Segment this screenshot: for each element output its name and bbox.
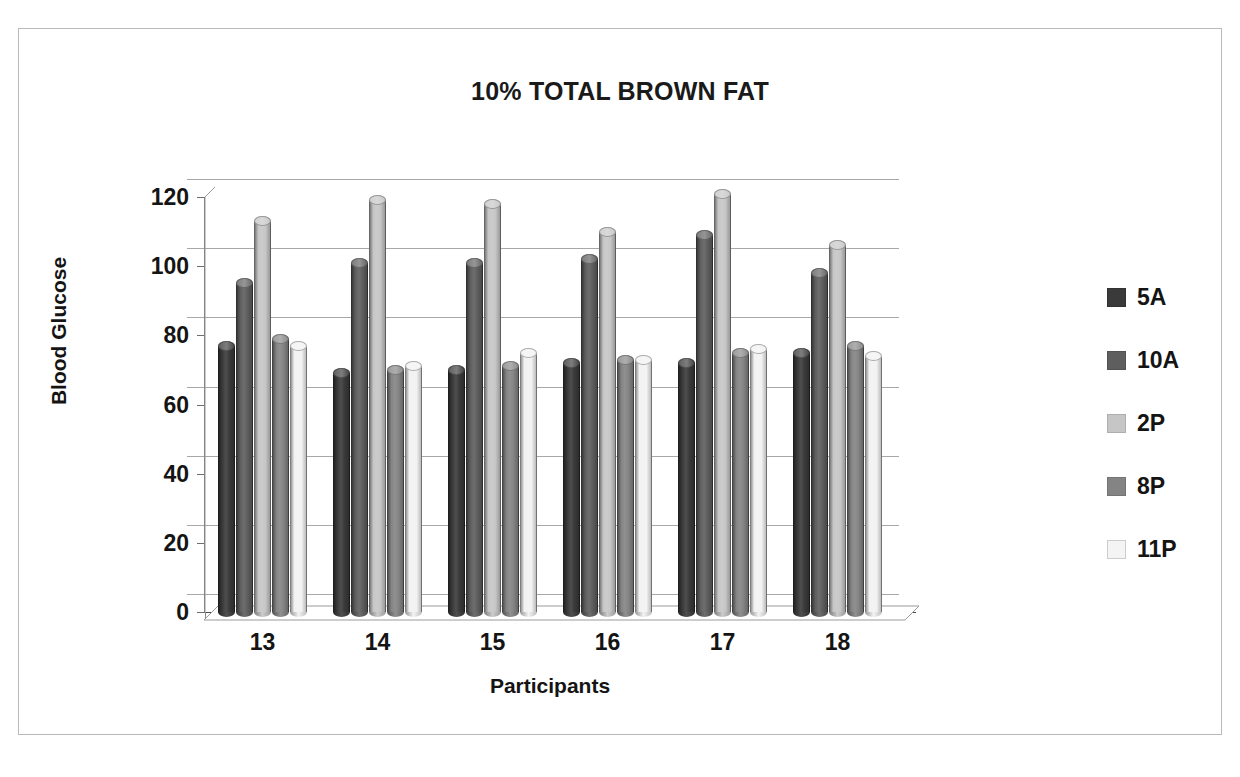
- bar-body: [387, 370, 404, 612]
- bar[interactable]: [581, 254, 598, 612]
- bar[interactable]: [218, 341, 235, 612]
- x-tick-mark: [550, 612, 551, 619]
- bar[interactable]: [484, 199, 501, 612]
- bar-body: [829, 245, 846, 612]
- bar[interactable]: [387, 365, 404, 612]
- bar-top-cap-outline: [290, 341, 307, 351]
- bar-top-cap-outline: [484, 199, 501, 209]
- chart-frame: 10% TOTAL BROWN FAT Blood Glucose 020406…: [18, 28, 1222, 735]
- x-tick-label: 15: [438, 629, 548, 656]
- bar-top-cap-outline: [793, 348, 810, 358]
- bar[interactable]: [599, 227, 616, 612]
- bar[interactable]: [732, 348, 749, 612]
- bar-body: [351, 263, 368, 612]
- x-tick-mark: [895, 612, 896, 619]
- bar-top-cap-outline: [847, 341, 864, 351]
- x-tick-label: 14: [323, 629, 433, 656]
- legend-swatch-icon: [1107, 477, 1126, 496]
- legend-label: 5A: [1137, 286, 1166, 309]
- bar[interactable]: [563, 358, 580, 612]
- bar[interactable]: [502, 361, 519, 612]
- bar-body: [714, 194, 731, 612]
- bar[interactable]: [696, 230, 713, 612]
- bar[interactable]: [448, 365, 465, 612]
- bar[interactable]: [369, 195, 386, 612]
- bar-top-cap-outline: [714, 189, 731, 199]
- bar-body: [448, 370, 465, 612]
- bar-body: [520, 353, 537, 612]
- bar-body: [333, 373, 350, 612]
- x-tick-mark: [435, 612, 436, 619]
- legend-swatch-icon: [1107, 414, 1126, 433]
- bar[interactable]: [811, 268, 828, 612]
- y-tick-label: 0: [129, 599, 189, 626]
- bar-top-cap-outline: [272, 334, 289, 344]
- bar[interactable]: [466, 258, 483, 612]
- bar-top-cap-outline: [218, 341, 235, 351]
- bar[interactable]: [678, 358, 695, 612]
- bar-body: [847, 346, 864, 612]
- legend-item-5a[interactable]: 5A: [1107, 266, 1227, 329]
- bar[interactable]: [635, 355, 652, 612]
- bar-body: [236, 283, 253, 612]
- x-tick-label: 17: [668, 629, 778, 656]
- chart-title: 10% TOTAL BROWN FAT: [19, 77, 1221, 106]
- bar-body: [617, 360, 634, 612]
- bar[interactable]: [333, 368, 350, 612]
- x-tick-label: 16: [553, 629, 663, 656]
- bar[interactable]: [520, 348, 537, 612]
- bar[interactable]: [793, 348, 810, 612]
- y-tick-label: 40: [129, 460, 189, 487]
- bar-body: [369, 200, 386, 612]
- legend-item-2p[interactable]: 2P: [1107, 392, 1227, 455]
- legend-item-11p[interactable]: 11P: [1107, 518, 1227, 581]
- legend-label: 8P: [1137, 475, 1165, 498]
- bar[interactable]: [290, 341, 307, 612]
- bar-body: [750, 349, 767, 612]
- x-tick-mark: [320, 612, 321, 619]
- bar-top-cap-outline: [599, 227, 616, 237]
- legend-swatch-icon: [1107, 288, 1126, 307]
- bar[interactable]: [865, 351, 882, 612]
- bar-top-cap-outline: [732, 348, 749, 358]
- bar[interactable]: [829, 240, 846, 612]
- bar-body: [563, 363, 580, 612]
- bar-top-cap-outline: [678, 358, 695, 368]
- bar-body: [254, 221, 271, 612]
- bar[interactable]: [714, 189, 731, 612]
- bar[interactable]: [405, 361, 422, 612]
- bar[interactable]: [254, 216, 271, 612]
- y-tick-label: 100: [129, 253, 189, 280]
- bar-top-cap-outline: [617, 355, 634, 365]
- y-tick-label: 60: [129, 391, 189, 418]
- bar-body: [732, 353, 749, 612]
- bar-body: [581, 259, 598, 612]
- bar-body: [466, 263, 483, 612]
- x-tick-mark: [665, 612, 666, 619]
- bar[interactable]: [750, 344, 767, 612]
- legend-swatch-icon: [1107, 540, 1126, 559]
- bar-top-cap-outline: [520, 348, 537, 358]
- bar[interactable]: [351, 258, 368, 612]
- y-tick-label: 20: [129, 529, 189, 556]
- bar[interactable]: [272, 334, 289, 612]
- bar-body: [635, 360, 652, 612]
- legend-label: 11P: [1137, 538, 1177, 561]
- bar-body: [865, 356, 882, 612]
- bar-body: [811, 273, 828, 612]
- y-axis-title: Blood Glucose: [47, 221, 71, 441]
- y-tick-label: 120: [129, 184, 189, 211]
- bar-body: [793, 353, 810, 612]
- y-axis-tick-labels: 020406080100120: [119, 29, 189, 777]
- bar-body: [678, 363, 695, 612]
- x-axis-title: Participants: [205, 674, 895, 698]
- legend-item-10a[interactable]: 10A: [1107, 329, 1227, 392]
- legend-item-8p[interactable]: 8P: [1107, 455, 1227, 518]
- bar-top-cap-outline: [466, 258, 483, 268]
- bar[interactable]: [617, 355, 634, 612]
- legend: 5A10A2P8P11P: [1107, 266, 1227, 581]
- bar-body: [484, 204, 501, 612]
- bar[interactable]: [236, 278, 253, 612]
- y-tick-label: 80: [129, 322, 189, 349]
- bar[interactable]: [847, 341, 864, 612]
